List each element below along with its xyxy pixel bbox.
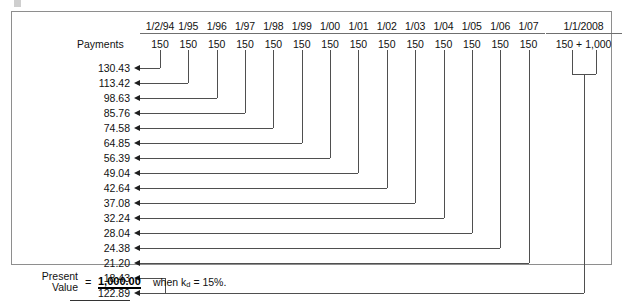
lead-line-12 (140, 248, 500, 249)
present-value-9: 37.08 (70, 197, 130, 209)
present-value-15: 122.89 (70, 287, 130, 301)
date-label-14: 1/1/2008 (554, 20, 614, 32)
tick-2008-principal (596, 50, 597, 74)
header-underline-2008 (546, 33, 622, 34)
present-value-5: 64.85 (70, 137, 130, 149)
tick-2008-coupon (572, 50, 573, 74)
arrowhead-11 (134, 230, 140, 236)
present-value-10: 32.24 (70, 212, 130, 224)
present-value-4: 74.58 (70, 122, 130, 134)
arrowhead-2 (134, 95, 140, 101)
kd-subscript: d (186, 280, 190, 289)
arrowhead-9 (134, 200, 140, 206)
arrowhead-3 (134, 110, 140, 116)
payments-row-label: Payments (77, 38, 124, 50)
equals-sign: = (85, 276, 91, 288)
payment-value-14: 150 + 1,000 (547, 38, 621, 50)
tick-drop-1 (188, 50, 189, 83)
present-value-11: 28.04 (70, 227, 130, 239)
tick-drop-10 (444, 50, 445, 218)
tick-drop-4 (273, 50, 274, 128)
arrowhead-5 (134, 140, 140, 146)
tick-drop-6 (330, 50, 331, 158)
lead-line-9 (140, 203, 415, 204)
present-value-6: 56.39 (70, 152, 130, 164)
lead-line-11 (140, 233, 472, 234)
arrowhead-1 (134, 80, 140, 86)
tick-drop-2 (217, 50, 218, 98)
present-value-8: 42.64 (70, 182, 130, 194)
arrowhead-6 (134, 155, 140, 161)
arrowhead-4 (134, 125, 140, 131)
present-value-13: 21.20 (70, 257, 130, 269)
lead-line-7 (140, 173, 358, 174)
tick-drop-12 (500, 50, 501, 248)
present-value-0: 130.43 (70, 62, 130, 74)
tick-drop-7 (358, 50, 359, 173)
lead-line-6 (140, 158, 330, 159)
bracket-2008-stem (584, 74, 585, 293)
lead-line-3 (140, 113, 245, 114)
lead-line-4 (140, 128, 273, 129)
tick-drop-8 (387, 50, 388, 188)
header-underline-main (140, 33, 545, 34)
tick-drop-13 (529, 50, 530, 263)
lead-line-1 (140, 83, 188, 84)
lead-line-13 (140, 263, 529, 264)
lead-line-10 (140, 218, 444, 219)
present-value-3: 85.76 (70, 107, 130, 119)
arrowhead-12 (134, 245, 140, 251)
total-present-value: 1,000.00 (98, 275, 141, 289)
lead-line-0 (140, 68, 160, 69)
lead-line-5 (140, 143, 302, 144)
discount-rate-note: when kd = 15%. (153, 276, 226, 289)
arrowhead-13 (134, 260, 140, 266)
lead-line-2008 (165, 293, 584, 294)
lead-line-15 (140, 293, 165, 294)
present-value-2: 98.63 (70, 92, 130, 104)
arrowhead-10 (134, 215, 140, 221)
arrowhead-15 (134, 290, 140, 296)
tick-drop-9 (415, 50, 416, 203)
arrowhead-8 (134, 185, 140, 191)
present-value-7: 49.04 (70, 167, 130, 179)
present-value-total-label: Present Value (20, 271, 78, 293)
tick-drop-3 (245, 50, 246, 113)
arrowhead-0 (134, 65, 140, 71)
tick-drop-0 (160, 50, 161, 68)
page-crop-mark (14, 0, 21, 7)
present-value-12: 24.38 (70, 242, 130, 254)
lead-line-8 (140, 188, 387, 189)
arrowhead-7 (134, 170, 140, 176)
tick-drop-5 (302, 50, 303, 143)
page-top-strip (0, 0, 638, 10)
date-label-13: 1/07 (499, 20, 559, 32)
present-value-1: 113.42 (70, 77, 130, 89)
lead-line-2 (140, 98, 217, 99)
tick-drop-11 (472, 50, 473, 233)
